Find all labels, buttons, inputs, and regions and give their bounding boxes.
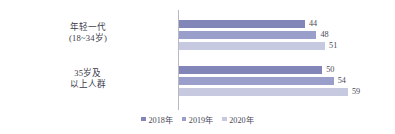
legend-label: 2019年 [189, 113, 213, 125]
bar-2019年-older [179, 77, 334, 85]
legend-item-2020年[interactable]: 2020年 [222, 113, 253, 125]
bar-2020年-young [179, 42, 325, 50]
legend-swatch-icon [222, 117, 227, 122]
category-label-line-1: 年轻一代 [4, 22, 172, 33]
bar-2020年-older [179, 88, 348, 96]
chart-legend: 2018年2019年2020年 [0, 113, 395, 125]
bar-2018年-young [179, 20, 305, 28]
value-label: 44 [309, 20, 317, 28]
legend-swatch-icon [182, 117, 187, 122]
category-label-young-generation: 年轻一代 (18~34岁) [4, 22, 172, 44]
category-label-line-2: (18~34岁) [4, 33, 172, 44]
value-label: 51 [329, 42, 337, 50]
bar-chart: 年轻一代 (18~34岁) 35岁及 以上人群 444851505459 201… [0, 0, 395, 134]
legend-item-2018年[interactable]: 2018年 [141, 113, 172, 125]
bar-2018年-older [179, 66, 322, 74]
value-label: 54 [338, 77, 346, 85]
value-label: 48 [320, 31, 328, 39]
bar-2019年-young [179, 31, 316, 39]
value-label: 59 [352, 88, 360, 96]
legend-item-2019年[interactable]: 2019年 [182, 113, 213, 125]
legend-swatch-icon [141, 117, 146, 122]
value-label: 50 [326, 66, 334, 74]
category-label-35-and-above: 35岁及 以上人群 [4, 68, 172, 90]
category-label-line-2: 以上人群 [4, 79, 172, 90]
legend-label: 2020年 [229, 113, 253, 125]
plot-area: 年轻一代 (18~34岁) 35岁及 以上人群 444851505459 [0, 0, 395, 110]
legend-label: 2018年 [148, 113, 172, 125]
category-label-line-1: 35岁及 [4, 68, 172, 79]
